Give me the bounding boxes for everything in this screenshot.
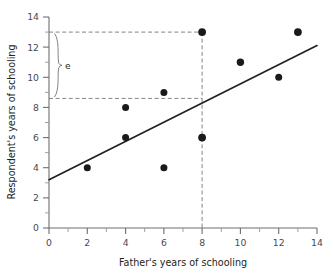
x-tick-label-12: 12 [273,237,285,248]
x-tick-label-0: 0 [46,237,52,248]
data-point [198,28,206,36]
y-axis-title: Respondent's years of schooling [6,44,17,199]
residual-brace: e [55,34,72,98]
scatter-chart: 14 12 10 8 6 4 2 0 0 [0,0,333,275]
regression-line [49,46,317,180]
residual-guides [49,32,202,228]
x-tick-label-6: 6 [161,237,167,248]
x-axis-ticks [49,228,317,234]
data-point [198,134,206,142]
data-point [84,164,91,171]
x-tick-label-8: 8 [199,237,205,248]
data-point [237,59,244,66]
data-point [160,164,167,171]
data-point [275,74,282,81]
data-point [122,134,129,141]
y-tick-label-10: 10 [27,72,39,83]
data-point [294,28,302,36]
y-tick-label-14: 14 [27,11,39,22]
y-tick-label-12: 12 [27,42,39,53]
x-tick-label-14: 14 [311,237,323,248]
x-tick-label-10: 10 [234,237,246,248]
x-tick-label-4: 4 [123,237,129,248]
y-tick-label-0: 0 [33,222,39,233]
data-point [122,104,129,111]
axes-group [49,17,317,228]
y-axis-ticks [43,17,49,228]
curly-brace-icon [55,34,63,98]
y-tick-label-2: 2 [33,192,39,203]
y-axis-tick-labels: 14 12 10 8 6 4 2 0 [27,11,39,233]
y-tick-label-4: 4 [33,162,39,173]
residual-label-e: e [65,61,71,71]
y-tick-label-6: 6 [33,132,39,143]
x-tick-label-2: 2 [84,237,90,248]
x-axis-tick-labels: 0 2 4 6 8 10 12 14 [46,237,323,248]
data-points-group [84,28,302,171]
y-tick-label-8: 8 [33,102,39,113]
x-axis-title: Father's years of schooling [119,257,247,268]
data-point [160,89,167,96]
plot-canvas: 14 12 10 8 6 4 2 0 0 [0,0,333,275]
